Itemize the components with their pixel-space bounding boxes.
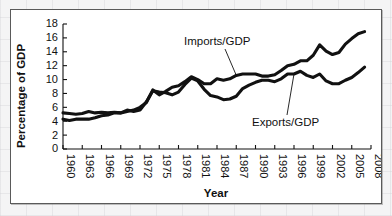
y-tick-label: 18 xyxy=(46,17,58,29)
x-tick-label: 1960 xyxy=(65,154,77,178)
x-tick-label: 1975 xyxy=(161,154,173,178)
y-tick-label: 14 xyxy=(46,45,58,57)
x-tick-label: 1993 xyxy=(277,154,289,178)
y-tick-label: 10 xyxy=(46,73,58,85)
x-tick-label: 1981 xyxy=(200,154,212,178)
y-tick-label: 2 xyxy=(52,129,58,141)
x-axis-tick-labels: 1960196319661969197219751978198119841987… xyxy=(65,154,381,178)
x-tick-label: 1966 xyxy=(104,154,116,178)
series-label-imports: Imports/GDP xyxy=(184,35,251,47)
x-tick-label: 1972 xyxy=(142,154,154,178)
x-tick-label: 2008 xyxy=(373,154,381,178)
page-root: 024681012141618 196019631966196919721975… xyxy=(0,0,392,216)
y-axis-tick-labels: 024681012141618 xyxy=(46,17,58,154)
x-tick-label: 1996 xyxy=(296,154,308,178)
y-tick-label: 6 xyxy=(52,101,58,113)
series-label-exports: Exports/GDP xyxy=(252,116,319,128)
line-chart: 024681012141618 196019631966196919721975… xyxy=(11,10,381,203)
x-tick-label: 2005 xyxy=(354,154,366,178)
y-tick-label: 4 xyxy=(52,115,58,127)
x-tick-label: 1963 xyxy=(84,154,96,178)
x-tick-label: 1978 xyxy=(181,154,193,178)
y-tick-label: 16 xyxy=(46,31,58,43)
x-tick-label: 1969 xyxy=(123,154,135,178)
y-tick-label: 8 xyxy=(52,87,58,99)
y-tick-label: 0 xyxy=(52,142,58,154)
annotation-leader-exports xyxy=(287,74,294,115)
annotation-leader-imports xyxy=(225,49,236,75)
series-line-exports xyxy=(63,67,365,114)
x-axis-title: Year xyxy=(204,187,229,199)
x-tick-label: 2002 xyxy=(335,154,347,178)
x-tick-label: 1984 xyxy=(219,154,231,178)
y-axis-ticks xyxy=(63,24,67,149)
x-tick-label: 1987 xyxy=(238,154,250,178)
x-tick-label: 1990 xyxy=(258,154,270,178)
y-tick-label: 12 xyxy=(46,59,58,71)
chart-figure-frame: 024681012141618 196019631966196919721975… xyxy=(10,9,382,204)
x-axis-ticks xyxy=(63,145,371,149)
x-tick-label: 1999 xyxy=(315,154,327,178)
y-axis-title: Percentage of GDP xyxy=(15,44,27,148)
